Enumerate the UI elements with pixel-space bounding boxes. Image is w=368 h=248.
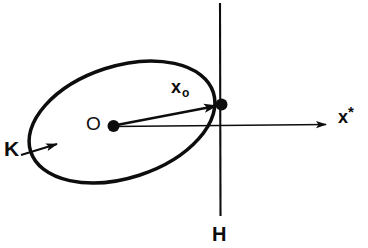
label-vector-x0-base: x	[171, 77, 181, 97]
label-hyperplane-h: H	[212, 224, 226, 244]
ellipse-set-k	[13, 39, 230, 205]
axis-xstar-line	[113, 125, 326, 127]
label-vector-x0-subscript: o	[182, 86, 189, 100]
figure-canvas: K O xo x* H	[0, 0, 368, 248]
vector-x0-line	[114, 106, 216, 126]
label-axis-xstar: x*	[338, 108, 354, 126]
pointer-arrow-k	[21, 144, 57, 155]
label-axis-xstar-superscript: *	[348, 103, 354, 120]
point-touch-x0	[216, 99, 228, 111]
label-vector-x0: xo	[171, 78, 188, 96]
label-axis-xstar-base: x	[338, 107, 348, 127]
label-origin-o: O	[86, 114, 101, 133]
point-center-o	[108, 120, 120, 132]
diagram-svg	[0, 0, 368, 248]
label-set-k: K	[4, 138, 19, 159]
